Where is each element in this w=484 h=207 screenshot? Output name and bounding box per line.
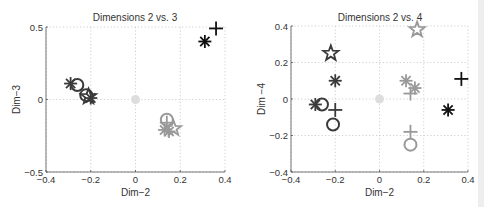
x-axis-label: Dim−2 <box>121 187 151 198</box>
y-tick-label: 0 <box>38 94 43 105</box>
asterisk-marker-icon <box>442 103 455 116</box>
x-axis-label: Dim−2 <box>365 187 395 198</box>
plot-dim2-vs-dim3: −0.4−0.200.20.4−0.500.5Dimensions 2 vs. … <box>11 12 232 198</box>
star-marker-icon <box>323 45 338 59</box>
dot-marker-icon <box>131 95 140 104</box>
dot-marker-icon <box>375 95 384 104</box>
y-tick-label: 0.4 <box>275 21 288 32</box>
x-tick-label: 0.2 <box>174 174 187 185</box>
plus-marker-icon <box>454 72 468 86</box>
plus-marker-icon <box>403 125 417 139</box>
circle-marker-icon <box>404 139 416 151</box>
asterisk-marker-icon <box>84 92 97 105</box>
plus-marker-icon <box>328 103 342 117</box>
asterisk-marker-icon <box>329 74 342 87</box>
asterisk-marker-icon <box>198 35 211 48</box>
y-tick-label: −0.5 <box>24 167 43 178</box>
circle-marker-icon <box>327 119 339 131</box>
scatter-plot-figure: −0.4−0.200.20.4−0.500.5Dimensions 2 vs. … <box>0 0 484 207</box>
y-tick-label: 0.5 <box>30 22 43 33</box>
x-tick-label: 0 <box>377 174 382 185</box>
y-tick-label: −0.4 <box>269 167 288 178</box>
chart-title: Dimensions 2 vs. 3 <box>93 12 178 23</box>
x-tick-label: 0.4 <box>218 174 231 185</box>
x-tick-label: 0.2 <box>417 174 430 185</box>
y-axis-label: Dim −4 <box>256 83 267 115</box>
x-tick-label: 0.4 <box>461 174 474 185</box>
star-marker-icon <box>410 22 425 36</box>
asterisk-marker-icon <box>163 125 176 138</box>
y-tick-label: 0.2 <box>275 57 288 68</box>
x-tick-label: 0 <box>133 174 138 185</box>
y-axis-label: Dim−3 <box>11 84 22 114</box>
plus-marker-icon <box>209 21 223 35</box>
x-tick-label: −0.2 <box>326 174 345 185</box>
chart-title: Dimensions 2 vs. 4 <box>338 12 423 23</box>
x-tick-label: −0.2 <box>81 174 100 185</box>
plot-dim2-vs-dim4: −0.4−0.200.20.4−0.4−0.200.20.4Dimensions… <box>256 12 475 198</box>
asterisk-marker-icon <box>400 74 413 87</box>
y-tick-label: −0.2 <box>269 130 288 141</box>
y-tick-label: 0 <box>283 94 288 105</box>
